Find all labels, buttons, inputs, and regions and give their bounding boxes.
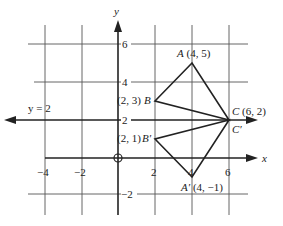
x-tick-label: 6 bbox=[225, 166, 231, 178]
coordinate-diagram: y x −4 −2 2 4 6 6 4 2 −2 y = 2 A (4, 5) … bbox=[0, 0, 283, 226]
point-b-prime-label: B′ bbox=[142, 132, 152, 144]
point-c-label: C (6, 2) bbox=[232, 105, 266, 118]
x-tick-label: 4 bbox=[188, 166, 194, 178]
point-c-prime-label: C′ bbox=[232, 123, 242, 135]
point-b-coords: (2, 3) bbox=[117, 94, 141, 107]
point-a-prime-label: A′ (4, −1) bbox=[180, 181, 223, 194]
y-axis bbox=[114, 20, 122, 215]
arrow-up-icon bbox=[114, 20, 122, 32]
y-tick-label: −2 bbox=[121, 188, 133, 200]
grid-horizontal bbox=[28, 44, 248, 194]
arrow-right-icon bbox=[246, 116, 258, 124]
arrow-left-icon bbox=[4, 116, 16, 124]
x-axis bbox=[45, 154, 258, 162]
point-b-prime-coords: (2, 1) bbox=[117, 132, 141, 145]
reflection-line-label: y = 2 bbox=[28, 102, 51, 114]
y-tick-label: 4 bbox=[122, 76, 128, 88]
y-tick-label: 6 bbox=[122, 38, 128, 50]
y-axis-label: y bbox=[113, 5, 119, 17]
arrow-right-icon bbox=[246, 154, 258, 162]
y-tick-label: 2 bbox=[122, 114, 128, 126]
x-tick-label: 2 bbox=[151, 166, 157, 178]
x-tick-label: −4 bbox=[37, 166, 49, 178]
point-b-label: B bbox=[144, 94, 151, 106]
x-tick-label: −2 bbox=[74, 166, 86, 178]
point-a-label: A (4, 5) bbox=[176, 47, 211, 60]
x-axis-label: x bbox=[261, 152, 267, 164]
